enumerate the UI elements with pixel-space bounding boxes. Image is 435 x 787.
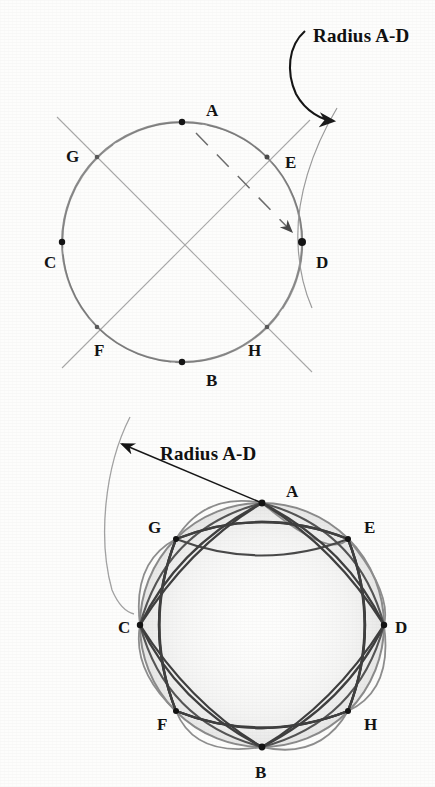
axis-diagonal-gh (57, 117, 312, 372)
point-label-a: A (206, 101, 219, 120)
point-label-f: F (94, 341, 104, 360)
point-label-e-bottom: E (364, 518, 375, 537)
compass-sweep-arc (298, 108, 337, 308)
point-label-b: B (206, 371, 217, 390)
vertex-dot-b (179, 359, 185, 365)
point-label-c-bottom: C (118, 618, 130, 637)
vertex-dot-d-b (381, 622, 387, 628)
point-label-d: D (316, 253, 328, 272)
vertex-dot-b-b (259, 744, 266, 751)
point-label-d-bottom: D (395, 618, 407, 637)
callout-label-top: Radius A-D (313, 25, 410, 46)
vertex-dot-g-b (173, 536, 179, 542)
vertex-dot-c-b (137, 622, 143, 628)
point-label-h: H (248, 341, 261, 360)
point-label-g-bottom: G (148, 518, 161, 537)
vertex-dot-c (59, 239, 65, 245)
point-label-h-bottom: H (364, 715, 377, 734)
point-label-a-bottom: A (286, 482, 299, 501)
dashed-chord-a-d (196, 133, 292, 232)
vertex-dot-e (265, 155, 270, 160)
figure-woven-star-circle: A B C D E F G H Radius A-D (0, 400, 435, 787)
drawing-page: A B C D E F G H Radius A-D (0, 0, 435, 787)
figure-construction-circle: A B C D E F G H Radius A-D (0, 0, 435, 400)
point-label-g: G (66, 147, 79, 166)
vertex-dot-e-b (345, 536, 351, 542)
vertex-dot-a (179, 119, 185, 125)
vertex-dot-g (95, 155, 100, 160)
point-label-c: C (44, 253, 56, 272)
callout-label-bottom: Radius A-D (160, 443, 257, 464)
point-label-b-bottom: B (255, 763, 266, 782)
vertex-dot-h (265, 325, 270, 330)
point-label-e: E (285, 153, 296, 172)
vertex-dot-d (298, 238, 306, 246)
point-label-f-bottom: F (157, 715, 167, 734)
vertex-dot-a-b (259, 500, 266, 507)
vertex-dot-f-b (173, 708, 179, 714)
vertex-dot-f (95, 325, 100, 330)
vertex-dot-h-b (345, 708, 351, 714)
